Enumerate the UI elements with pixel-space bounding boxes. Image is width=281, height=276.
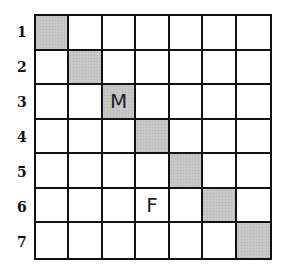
cell-r5c6 — [203, 154, 236, 189]
cell-r4c4 — [136, 120, 169, 155]
cell-r3c5 — [170, 85, 203, 120]
cell-r2c1 — [36, 51, 69, 86]
cell-r1c3 — [103, 16, 136, 51]
row-label-6: 6 — [0, 190, 34, 225]
cell-r5c4 — [136, 154, 169, 189]
row-labels: 1 2 3 4 5 6 7 — [0, 14, 34, 260]
row-label-3: 3 — [0, 84, 34, 119]
cell-r7c5 — [170, 223, 203, 258]
cell-r1c1 — [36, 16, 69, 51]
cell-r3c7 — [237, 85, 270, 120]
cell-r5c5 — [170, 154, 203, 189]
cell-r6c3 — [103, 189, 136, 224]
cell-r3c2 — [69, 85, 102, 120]
cell-r3c4 — [136, 85, 169, 120]
cell-r5c7 — [237, 154, 270, 189]
seven-by-seven-grid: M F — [34, 14, 272, 260]
cell-r7c1 — [36, 223, 69, 258]
cell-r6c6 — [203, 189, 236, 224]
cell-r3c1 — [36, 85, 69, 120]
cell-r2c5 — [170, 51, 203, 86]
row-label-7: 7 — [0, 225, 34, 260]
cell-r5c1 — [36, 154, 69, 189]
grid-container: M F — [34, 14, 272, 260]
cell-r1c4 — [136, 16, 169, 51]
cell-r3c6 — [203, 85, 236, 120]
cell-r7c2 — [69, 223, 102, 258]
cell-r2c3 — [103, 51, 136, 86]
cell-r5c2 — [69, 154, 102, 189]
cell-r4c1 — [36, 120, 69, 155]
row-label-1: 1 — [0, 14, 34, 49]
cell-r4c3 — [103, 120, 136, 155]
cell-r4c6 — [203, 120, 236, 155]
cell-r6c7 — [237, 189, 270, 224]
cell-r5c3 — [103, 154, 136, 189]
cell-r1c2 — [69, 16, 102, 51]
cell-r2c6 — [203, 51, 236, 86]
cell-r7c4 — [136, 223, 169, 258]
cell-r7c6 — [203, 223, 236, 258]
cell-r1c5 — [170, 16, 203, 51]
cell-r6c4: F — [136, 189, 169, 224]
cell-r6c1 — [36, 189, 69, 224]
cell-r3c3: M — [103, 85, 136, 120]
cell-r1c7 — [237, 16, 270, 51]
row-label-2: 2 — [0, 49, 34, 84]
cell-r7c7 — [237, 223, 270, 258]
cell-r4c5 — [170, 120, 203, 155]
cell-r6c5 — [170, 189, 203, 224]
cell-r6c2 — [69, 189, 102, 224]
cell-r7c3 — [103, 223, 136, 258]
row-label-4: 4 — [0, 119, 34, 154]
row-label-5: 5 — [0, 155, 34, 190]
cell-r4c2 — [69, 120, 102, 155]
cell-r2c4 — [136, 51, 169, 86]
cell-r4c7 — [237, 120, 270, 155]
cell-r2c2 — [69, 51, 102, 86]
cell-r2c7 — [237, 51, 270, 86]
cell-r1c6 — [203, 16, 236, 51]
